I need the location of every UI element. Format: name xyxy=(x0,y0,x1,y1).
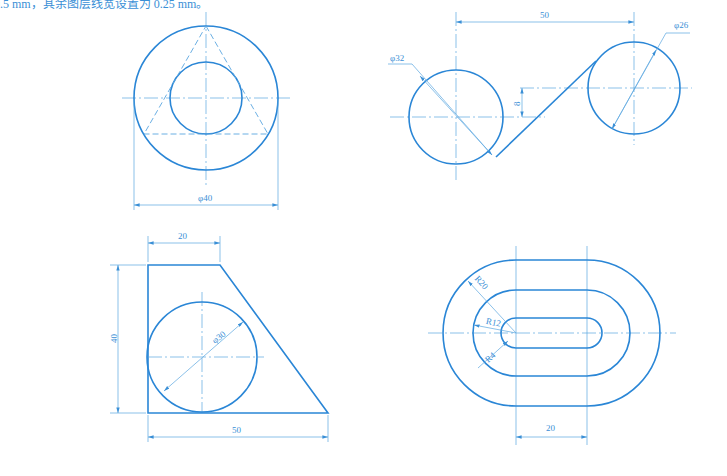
dimension-label-phi40: φ40 xyxy=(198,193,213,203)
leader-phi32 xyxy=(388,64,492,155)
dimension-label-r12: R12 xyxy=(485,316,502,329)
dimension-label-20: 20 xyxy=(546,423,556,433)
figure-2-tangent-circles: 50 8 φ32 φ26 xyxy=(388,10,692,182)
dimension-label-20-top: 20 xyxy=(178,231,188,241)
trapezoid-outline xyxy=(148,265,328,413)
dimension-label-40: 40 xyxy=(109,334,119,344)
tangent-line xyxy=(496,61,596,157)
dimension-line-phi30 xyxy=(164,322,243,391)
drawing-canvas: φ40 50 8 φ32 φ26 φ30 20 xyxy=(0,0,727,476)
figure-4-nested-slots: R20 R12 R4 20 xyxy=(428,246,676,445)
dimension-label-50-bottom: 50 xyxy=(232,425,242,435)
dimension-label-phi32: φ32 xyxy=(390,53,404,63)
figure-1-concentric-circles: φ40 xyxy=(122,12,292,210)
dimension-label-8: 8 xyxy=(512,101,522,106)
dimension-label-phi30: φ30 xyxy=(210,329,228,346)
dimension-label-phi26: φ26 xyxy=(674,20,689,30)
figure-3-trapezoid: φ30 20 40 50 xyxy=(109,231,328,442)
leader-phi26 xyxy=(612,33,690,129)
dimension-label-50: 50 xyxy=(540,10,550,20)
